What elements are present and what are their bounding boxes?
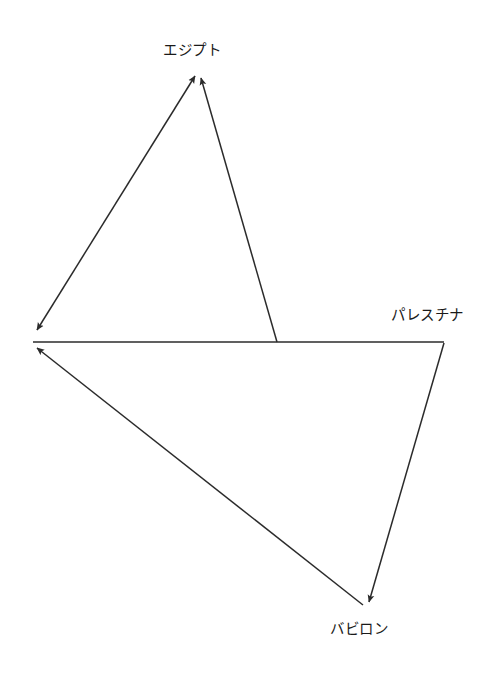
diagram-canvas-container: エジプト パレスチナ バビロン [0,0,497,684]
node-label-babylon: バビロン [330,622,388,637]
edge-palestine-babylon [369,343,444,602]
edge-junction-egypt [37,76,195,330]
edge-baseline-egypt [201,78,277,342]
node-label-egypt: エジプト [163,43,221,58]
node-label-palestine: パレスチナ [391,308,464,323]
edge-babylon-junction [37,348,363,605]
diagram-svg [0,0,497,684]
